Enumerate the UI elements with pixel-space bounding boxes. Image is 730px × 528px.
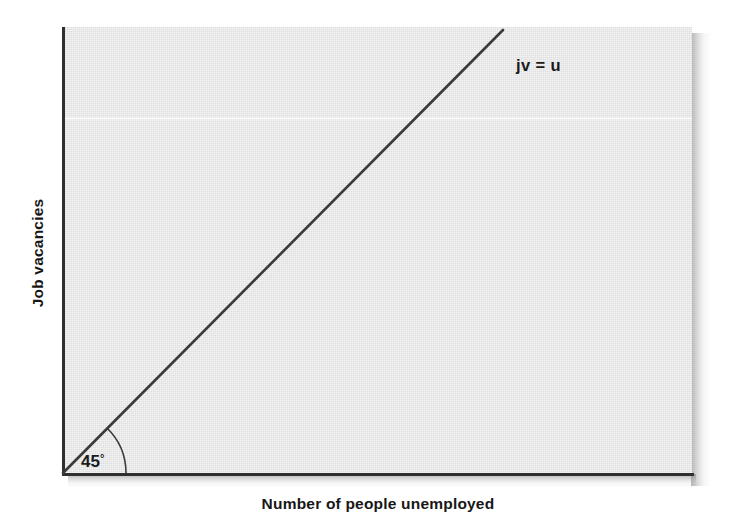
jv-equals-u-line <box>63 30 503 473</box>
beveridge-curve-figure: jv = u 45° Job vacancies Number of peopl… <box>0 0 730 528</box>
angle-value: 45 <box>81 452 100 471</box>
angle-arc <box>107 428 126 473</box>
chart-overlay <box>0 0 730 528</box>
x-axis-label: Number of people unemployed <box>62 495 694 513</box>
line-equation-label: jv = u <box>516 56 561 75</box>
degree-symbol-icon: ° <box>100 452 104 464</box>
angle-label: 45° <box>81 452 104 472</box>
y-axis-label: Job vacancies <box>29 153 47 353</box>
